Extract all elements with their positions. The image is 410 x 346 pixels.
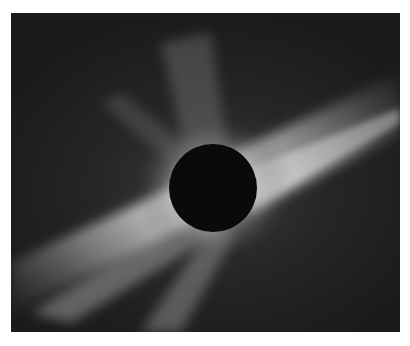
moon-disk	[169, 144, 257, 232]
corona-illustration	[11, 13, 400, 332]
eclipse-photo	[11, 13, 400, 332]
